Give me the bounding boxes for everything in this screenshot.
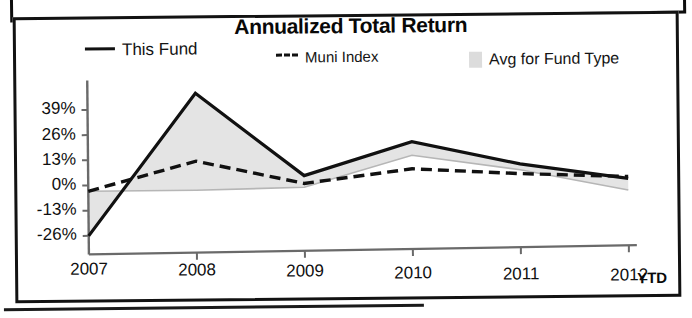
scanned-page: Annualized Total Return This Fund Muni I… xyxy=(0,0,692,318)
x-axis-line xyxy=(89,245,637,254)
y-axis-line xyxy=(87,80,89,254)
x-axis-tick-label: 2010 xyxy=(394,263,432,283)
x-axis-tick-label: 2011 xyxy=(503,264,540,284)
x-axis-tick-label: 2008 xyxy=(178,260,216,280)
chart: Annualized Total Return This Fund Muni I… xyxy=(0,0,692,318)
x-axis-tick-label: 2009 xyxy=(286,262,324,282)
x-axis-tick-label: 2007 xyxy=(70,259,108,279)
avg-for-fund-type-area xyxy=(87,89,628,236)
x-axis-ytd-label: YTD xyxy=(637,269,667,286)
